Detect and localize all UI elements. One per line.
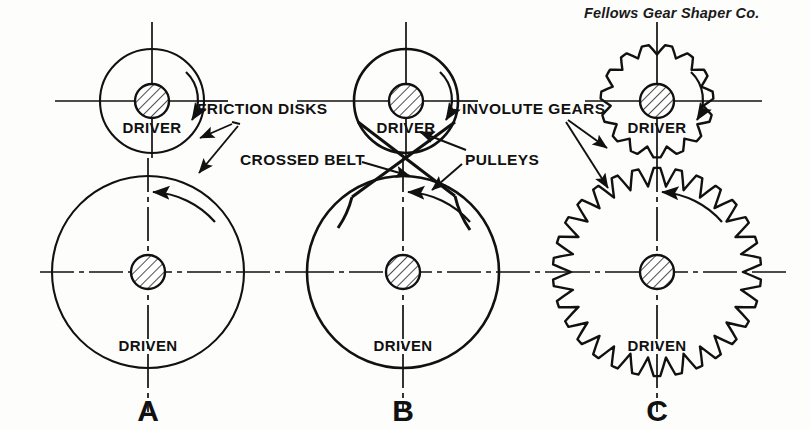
b-driver-hub <box>384 79 428 123</box>
caption-c: C <box>646 396 668 426</box>
a-driven-label: DRIVEN <box>118 338 177 353</box>
callout-friction-disks: FRICTION DISKS <box>197 101 327 117</box>
b-driver-rotation-arrow <box>440 72 452 120</box>
a-driver-label: DRIVER <box>122 120 181 135</box>
credit-line: Fellows Gear Shaper Co. <box>584 5 759 21</box>
b-driven-hub <box>381 250 425 294</box>
belt-wrap-left <box>338 197 352 228</box>
a-driven-hub <box>126 250 170 294</box>
c-driver-hub <box>635 79 679 123</box>
caption-b: B <box>392 396 414 426</box>
callout-involute-gears: INVOLUTE GEARS <box>462 101 605 117</box>
c-driven-rotation-arrow <box>662 192 722 222</box>
involute-gears-leaders <box>566 120 608 188</box>
mechanical-drive-figure: Fellows Gear Shaper Co. FRICTION DISKS C… <box>0 0 810 429</box>
c-driven-hub <box>635 250 679 294</box>
c-driver-rotation-arrow <box>691 72 703 120</box>
callout-pulleys: PULLEYS <box>465 152 539 168</box>
callout-crossed-belt: CROSSED BELT <box>240 152 365 168</box>
b-driver-label: DRIVER <box>376 120 435 135</box>
c-driven-label: DRIVEN <box>627 338 686 353</box>
c-driver-label: DRIVER <box>627 120 686 135</box>
b-driven-label: DRIVEN <box>373 338 432 353</box>
a-driver-hub <box>130 79 174 123</box>
friction-disks-leader-joint <box>232 122 240 124</box>
friction-disks-leaders <box>199 122 240 173</box>
friction-disks-leader-upper <box>200 124 232 138</box>
friction-disks-leader-lower <box>199 126 238 173</box>
caption-a: A <box>137 396 159 426</box>
figure-canvas <box>0 0 810 429</box>
involute-gears-leader-lower <box>566 122 608 188</box>
